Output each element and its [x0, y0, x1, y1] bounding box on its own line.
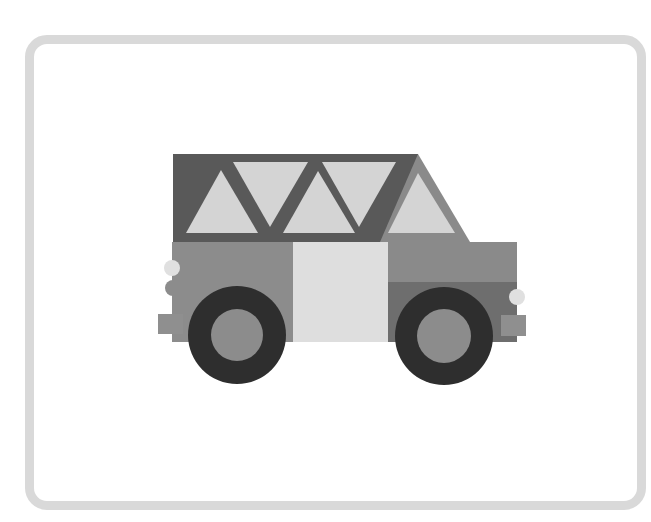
- rear-light: [164, 260, 180, 276]
- headlight: [509, 289, 525, 305]
- rear-bumper: [158, 314, 183, 334]
- rear-hub: [211, 309, 263, 361]
- car-roof: [173, 154, 470, 242]
- car-illustration: [0, 0, 651, 522]
- front-bumper: [501, 315, 526, 336]
- body-front-upper: [388, 242, 517, 282]
- door-panel: [293, 242, 388, 342]
- front-wheel: [395, 287, 493, 385]
- rear-wheel: [188, 286, 286, 384]
- front-hub: [417, 309, 471, 363]
